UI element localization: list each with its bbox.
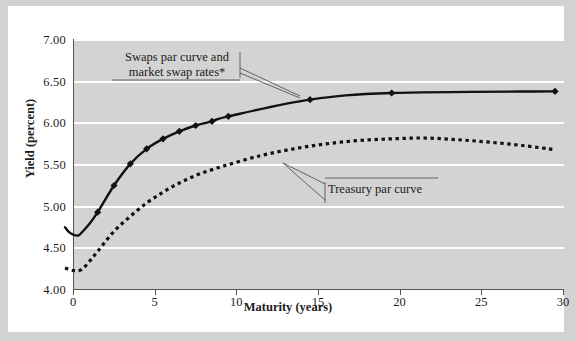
swaps-par-curve-line (65, 91, 555, 235)
swaps-annotation-label: Swaps par curve and market swap rates* (112, 50, 242, 80)
data-point-marker (306, 96, 313, 103)
chart-figure: 7.00 6.50 6.00 5.50 5.00 4.50 4.00 0 5 1… (0, 0, 576, 341)
swaps-leader-line-1 (240, 68, 300, 96)
data-point-marker (551, 88, 558, 95)
treasury-leader-line-1 (283, 163, 325, 184)
data-point-marker (225, 113, 232, 120)
data-point-marker (176, 128, 183, 135)
treasury-annotation-label: Treasury par curve (328, 182, 468, 197)
data-point-marker (208, 118, 215, 125)
treasury-par-curve-line (65, 138, 555, 271)
curves-layer (0, 0, 576, 341)
data-point-marker (388, 89, 395, 96)
data-point-marker (192, 122, 199, 129)
treasury-leader-line-2 (283, 163, 325, 200)
swaps-leader-line-2 (240, 73, 300, 98)
